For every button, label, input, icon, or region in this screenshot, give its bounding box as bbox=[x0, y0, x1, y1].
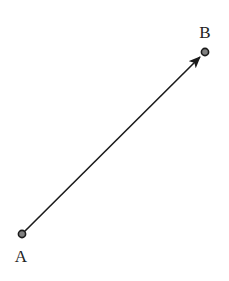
point-a-label: A bbox=[15, 247, 28, 266]
point-b[interactable] bbox=[201, 48, 208, 55]
point-a[interactable] bbox=[18, 230, 25, 237]
vector-ab bbox=[22, 57, 200, 234]
point-b-label: B bbox=[199, 23, 210, 42]
vector-diagram: A B bbox=[0, 0, 229, 281]
